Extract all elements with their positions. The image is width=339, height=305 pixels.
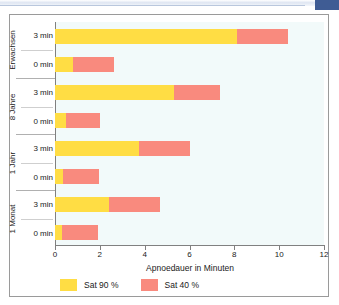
bar-segment-sat90	[55, 85, 174, 100]
group-label: 1 Monat	[6, 191, 20, 247]
bar-segment-sat90	[55, 57, 73, 72]
y-axis-line	[55, 22, 56, 246]
bar-segment-sat40	[174, 85, 220, 100]
bar-segment-sat90	[55, 197, 109, 212]
condition-label: 3 min	[21, 135, 53, 163]
category-axis: Erwachsen3 min0 min8 Jahre3 min0 min1 Ja…	[16, 22, 55, 246]
legend-swatch	[141, 279, 158, 291]
bar-segment-sat40	[139, 141, 189, 156]
category-group: 1 Jahr3 min0 min	[16, 134, 55, 190]
stacked-bar	[55, 113, 100, 128]
bar-segment-sat40	[63, 169, 99, 184]
stacked-bar	[55, 141, 190, 156]
chart-figure: Erwachsen3 min0 min8 Jahre3 min0 min1 Ja…	[9, 14, 329, 297]
stacked-bar	[55, 225, 98, 240]
x-tick-label: 10	[266, 250, 292, 259]
stacked-bar	[55, 169, 99, 184]
bar-segment-sat40	[237, 29, 289, 44]
bar-segment-sat90	[55, 169, 63, 184]
stacked-bar	[55, 29, 288, 44]
condition-label: 0 min	[21, 219, 53, 247]
condition-label: 3 min	[21, 79, 53, 107]
stacked-bar	[55, 197, 160, 212]
bar-segment-sat90	[55, 141, 139, 156]
page-corner-tab	[315, 0, 339, 10]
page-top-rule	[0, 5, 305, 6]
x-tick-label: 6	[177, 250, 203, 259]
condition-label: 0 min	[21, 163, 53, 191]
category-group: 1 Monat3 min0 min	[16, 190, 55, 246]
x-tick-label: 8	[221, 250, 247, 259]
legend-swatch	[60, 279, 77, 291]
category-group: 8 Jahre3 min0 min	[16, 78, 55, 134]
chart-legend: Sat 90 %Sat 40 %	[60, 279, 221, 291]
x-tick-label: 12	[311, 250, 337, 259]
bar-segment-sat40	[109, 197, 161, 212]
stacked-bar	[55, 85, 220, 100]
x-tick-label: 2	[87, 250, 113, 259]
legend-item: Sat 40 %	[141, 279, 200, 291]
bar-segment-sat90	[55, 225, 62, 240]
group-label: 8 Jahre	[6, 79, 20, 135]
x-tick-label: 0	[42, 250, 68, 259]
condition-label: 0 min	[21, 50, 53, 78]
bar-segment-sat40	[66, 113, 100, 128]
x-tick-label: 4	[132, 250, 158, 259]
legend-item: Sat 90 %	[60, 279, 119, 291]
bar-segment-sat90	[55, 113, 66, 128]
x-axis-title: Apnoedauer in Minuten	[55, 263, 325, 273]
condition-label: 0 min	[21, 107, 53, 135]
legend-label: Sat 90 %	[84, 280, 119, 290]
group-label: 1 Jahr	[6, 135, 20, 191]
bar-segment-sat40	[62, 225, 98, 240]
group-label: Erwachsen	[6, 22, 20, 78]
legend-label: Sat 40 %	[165, 280, 200, 290]
condition-label: 3 min	[21, 22, 53, 50]
stacked-bar	[55, 57, 114, 72]
bar-segment-sat40	[73, 57, 114, 72]
bar-segment-sat90	[55, 29, 237, 44]
condition-label: 3 min	[21, 191, 53, 219]
category-group: Erwachsen3 min0 min	[16, 22, 55, 78]
